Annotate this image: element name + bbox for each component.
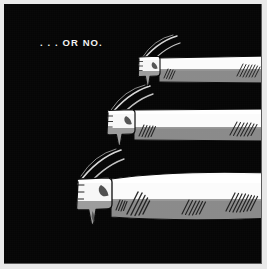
caption-text: . . . OR NO.	[40, 37, 103, 48]
thumbs-down-arm-middle	[105, 105, 262, 145]
thumbs-down-arm-bottom	[74, 170, 262, 226]
comic-panel: . . . OR NO.	[0, 0, 267, 269]
thumbs-down-arm-top	[137, 52, 262, 86]
panel-artwork: . . . OR NO.	[4, 4, 262, 264]
